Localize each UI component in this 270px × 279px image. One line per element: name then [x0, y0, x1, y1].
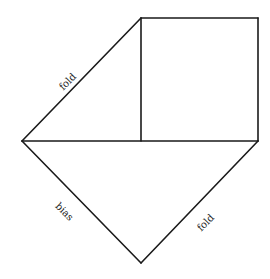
upper-left-fold-edge [22, 18, 141, 141]
bias-label-lower-left: bias [53, 200, 75, 222]
fold-label-lower-right: fold [195, 211, 217, 233]
lower-right-fold-edge [141, 141, 258, 263]
fold-label-upper-left: fold [57, 70, 79, 92]
fold-diagram: fold bias fold [0, 0, 270, 279]
lower-left-bias-edge [22, 141, 141, 263]
